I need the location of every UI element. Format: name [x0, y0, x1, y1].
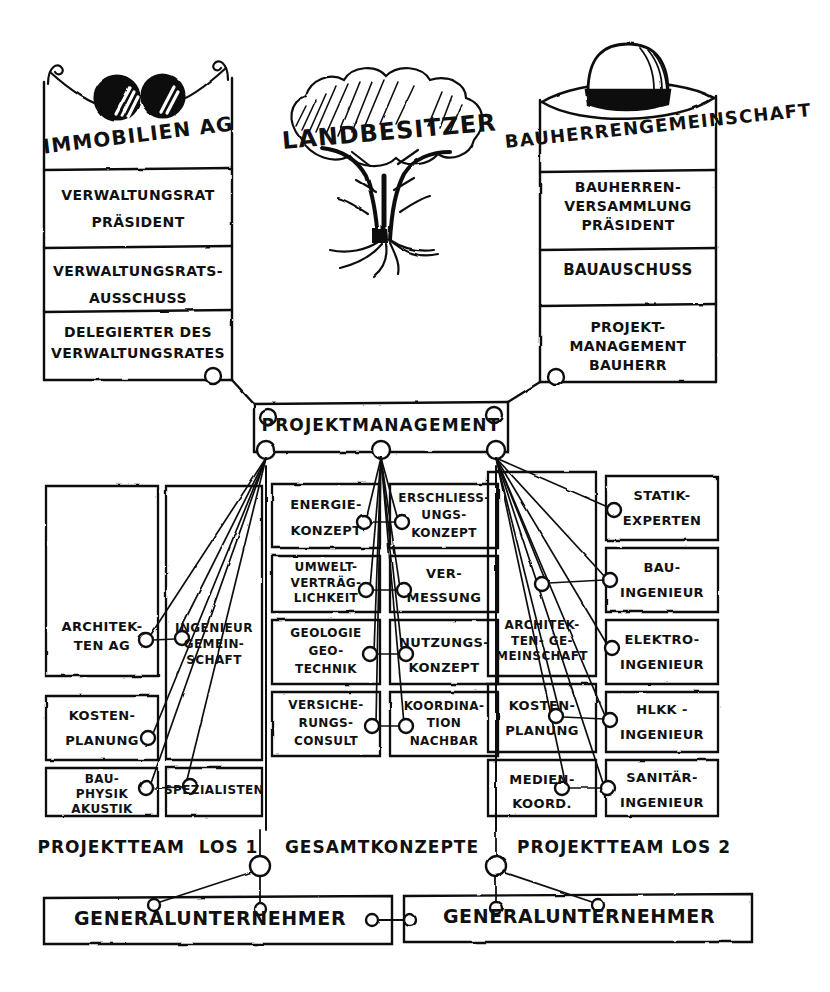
contractor-left-label: GENERALUNTERNEHMER: [50, 908, 370, 929]
node-fan-hub-left: [257, 441, 275, 459]
box-versicherungs-consult: VERSICHE- RUNGS- CONSULT: [272, 696, 380, 750]
projektmanagement-label: PROJEKTMANAGEMENT: [254, 416, 508, 435]
left-pillar-box-0: VERWALTUNGSRAT PRÄSIDENT: [44, 182, 232, 235]
link-right-pillar-to-pm: [508, 382, 540, 402]
box-geologie-geotechnik: GEOLOGIE GEO- TECHNIK: [272, 624, 380, 678]
box-umweltvertraeglichkeit: UMWELT- VERTRÄG- LICHKEIT: [272, 560, 380, 607]
right-pillar-box-0: BAUHERREN- VERSAMMLUNG PRÄSIDENT: [540, 178, 716, 235]
box-bauphysik-akustik: BAU- PHYSIK AKUSTIK: [46, 772, 158, 817]
box-ingenieur-gemeinschaft: INGENIEUR GEMEIN- SCHAFT: [166, 620, 262, 669]
left-pillar-box-1: VERWALTUNGSRATS- AUSSCHUSS: [44, 258, 232, 311]
box-architekten-ag: ARCHITEK- TEN AG: [46, 618, 158, 656]
node-left-pillar: [205, 368, 221, 384]
sunglasses-icon: [48, 61, 228, 120]
box-hlkk-ingenieur: HLKK - INGENIEUR: [606, 698, 718, 747]
node-fan-hub-right: [487, 441, 505, 459]
box-medien-koord: MEDIEN- KOORD.: [488, 768, 596, 816]
right-pillar-box-1: BAUAUSCHUSS: [540, 262, 716, 279]
box-energiekonzept: ENERGIE- KONZEPT: [272, 492, 380, 544]
tree-icon: [291, 68, 482, 276]
node-architekten-gemeinschaft: [535, 577, 549, 591]
right-pillar-box-2: PROJEKT- MANAGEMENT BAUHERR: [540, 318, 716, 375]
hat-icon: [542, 44, 714, 119]
box-kosten-planung-left: KOSTEN- PLANUNG: [46, 704, 158, 753]
group-label-center: GESAMTKONZEPTE: [276, 838, 488, 857]
contractor-right-label: GENERALUNTERNEHMER: [414, 906, 744, 927]
box-vermessung: VER- MESSUNG: [390, 562, 498, 610]
link-left-pillar-to-pm: [232, 380, 254, 404]
box-erschliessungskonzept: ERSCHLIESS- UNGS- KONZEPT: [390, 490, 498, 542]
node-team-hub-left: [250, 856, 270, 876]
node-team-hub-right: [486, 856, 506, 876]
box-statik-experten: STATIK- EXPERTEN: [606, 484, 718, 533]
box-kosten-planung-right: KOSTEN- PLANUNG: [488, 694, 596, 743]
group-label-left: PROJEKTTEAM LOS 1: [36, 838, 260, 857]
left-pillar-box-2: DELEGIERTER DES VERWALTUNGSRATES: [42, 322, 234, 364]
node-fan-hub-center: [372, 441, 390, 459]
box-sanitaer-ingenieur: SANITÄR- INGENIEUR: [606, 766, 718, 815]
box-elektro-ingenieur: ELEKTRO- INGENIEUR: [606, 628, 718, 677]
box-koordination-nachbar: KOORDINA- TION NACHBAR: [390, 698, 498, 750]
box-architekten-gemeinschaft: ARCHITEK- TEN- GE- MEINSCHAFT: [488, 618, 596, 665]
diagram-canvas: IMMOBILIEN AG LANDBESITZER BAUHERRENGEME…: [0, 0, 830, 992]
box-bau-ingenieur: BAU- INGENIEUR: [606, 556, 718, 605]
box-nutzungskonzept: NUTZUNGS- KONZEPT: [390, 630, 498, 681]
box-spezialisten: SPEZIALISTEN: [164, 784, 264, 797]
group-label-right: PROJEKTTEAM LOS 2: [506, 838, 742, 857]
